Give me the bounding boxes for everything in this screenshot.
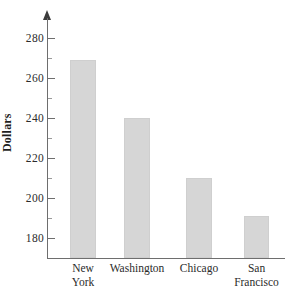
bar (186, 178, 212, 258)
y-tick-major (48, 198, 55, 199)
y-tick-label: 280 (26, 32, 44, 44)
x-axis-category-label: San Francisco (217, 262, 293, 289)
y-tick-major (48, 118, 55, 119)
bar (124, 118, 150, 258)
y-tick-minor (48, 98, 52, 99)
y-tick-label: 220 (26, 152, 44, 164)
y-tick-minor (48, 58, 52, 59)
y-tick-label: 180 (26, 232, 44, 244)
y-tick-label: 260 (26, 72, 44, 84)
y-tick-minor (48, 178, 52, 179)
y-tick-label: 200 (26, 192, 44, 204)
y-tick-label: 240 (26, 112, 44, 124)
y-tick-major (48, 238, 55, 239)
y-tick-major (48, 38, 55, 39)
x-axis-line (47, 258, 285, 259)
y-tick-minor (48, 218, 52, 219)
y-tick-major (48, 78, 55, 79)
y-axis-label: Dollars (0, 113, 15, 152)
y-tick-major (48, 158, 55, 159)
bar (244, 216, 269, 258)
bar-chart: Dollars 180200220240260280 New YorkWashi… (0, 0, 292, 306)
plot-area: Dollars 180200220240260280 New YorkWashi… (0, 0, 292, 306)
bar (70, 60, 96, 258)
y-tick-minor (48, 138, 52, 139)
